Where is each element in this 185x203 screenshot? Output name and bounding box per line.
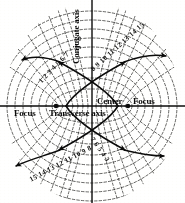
focus-right-label: Focus: [133, 97, 155, 106]
figure-canvas: Conjugate axis Transverse axis Center Fo…: [0, 0, 185, 203]
transverse-axis-label: Transverse axis: [49, 109, 106, 118]
confocal-conic-diagram: [0, 0, 185, 203]
conjugate-axis-label: Conjugate axis: [72, 10, 81, 64]
focus-right-marker: [126, 104, 131, 109]
focus-left-label: Focus: [14, 109, 36, 118]
center-label: Center: [97, 97, 122, 106]
